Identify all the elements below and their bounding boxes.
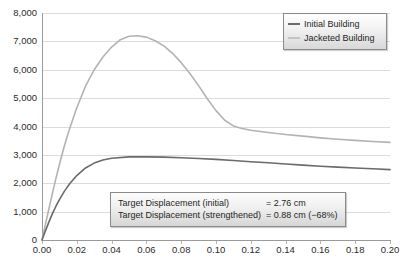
annotation-value-initial: = 2.76 cm [266, 197, 306, 209]
y-tick-label: 5,000 [0, 93, 37, 103]
x-tick-mark [146, 241, 147, 244]
x-tick-mark [181, 241, 182, 244]
y-tick-label: 1,000 [0, 207, 37, 217]
x-tick-mark [77, 241, 78, 244]
target-displacement-annotation: Target Displacement (initial) = 2.76 cm … [110, 192, 346, 227]
y-tick-label: 4,000 [0, 122, 37, 132]
legend-label-jacketed-building: Jacketed Building [304, 33, 375, 43]
annotation-row-strengthened: Target Displacement (strengthened) = 0.8… [118, 209, 338, 221]
y-tick-label: 0 [0, 235, 37, 245]
annotation-label-strengthened: Target Displacement (strengthened) [118, 209, 266, 221]
x-tick-mark [390, 241, 391, 244]
y-tick-label: 6,000 [0, 65, 37, 75]
legend-swatch-initial-building [288, 23, 300, 25]
x-tick-label: 0.20 [370, 245, 404, 255]
y-tick-label: 7,000 [0, 36, 37, 46]
chart-legend: Initial Building Jacketed Building [283, 13, 387, 50]
x-tick-mark [112, 241, 113, 244]
x-tick-mark [355, 241, 356, 244]
annotation-row-initial: Target Displacement (initial) = 2.76 cm [118, 197, 338, 209]
y-tick-label: 3,000 [0, 150, 37, 160]
legend-item-initial-building: Initial Building [288, 17, 382, 31]
x-tick-mark [42, 241, 43, 244]
annotation-label-initial: Target Displacement (initial) [118, 197, 266, 209]
legend-swatch-jacketed-building [288, 37, 300, 39]
pushover-curve-chart: 8,000 7,000 6,000 5,000 4,000 3,000 2,00… [0, 0, 404, 275]
legend-label-initial-building: Initial Building [304, 19, 360, 29]
x-tick-mark [216, 241, 217, 244]
x-tick-mark [286, 241, 287, 244]
x-tick-mark [320, 241, 321, 244]
x-tick-mark [251, 241, 252, 244]
annotation-value-strengthened: = 0.88 cm (−68%) [266, 209, 338, 221]
legend-item-jacketed-building: Jacketed Building [288, 31, 382, 45]
y-tick-label: 8,000 [0, 8, 37, 18]
y-tick-label: 2,000 [0, 178, 37, 188]
